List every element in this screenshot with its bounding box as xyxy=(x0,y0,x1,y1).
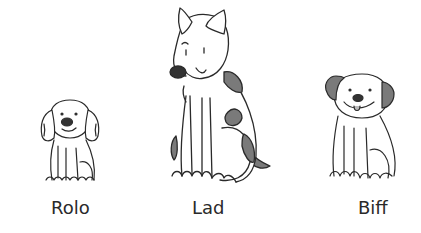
dog-rolo-illustration xyxy=(36,96,104,186)
label-lad: Lad xyxy=(192,199,224,217)
dog-lad-illustration xyxy=(160,6,274,188)
dog-biff-illustration xyxy=(322,70,404,186)
illustration: Rolo Lad Biff xyxy=(0,0,421,233)
label-biff: Biff xyxy=(358,199,388,217)
label-rolo: Rolo xyxy=(51,199,90,217)
